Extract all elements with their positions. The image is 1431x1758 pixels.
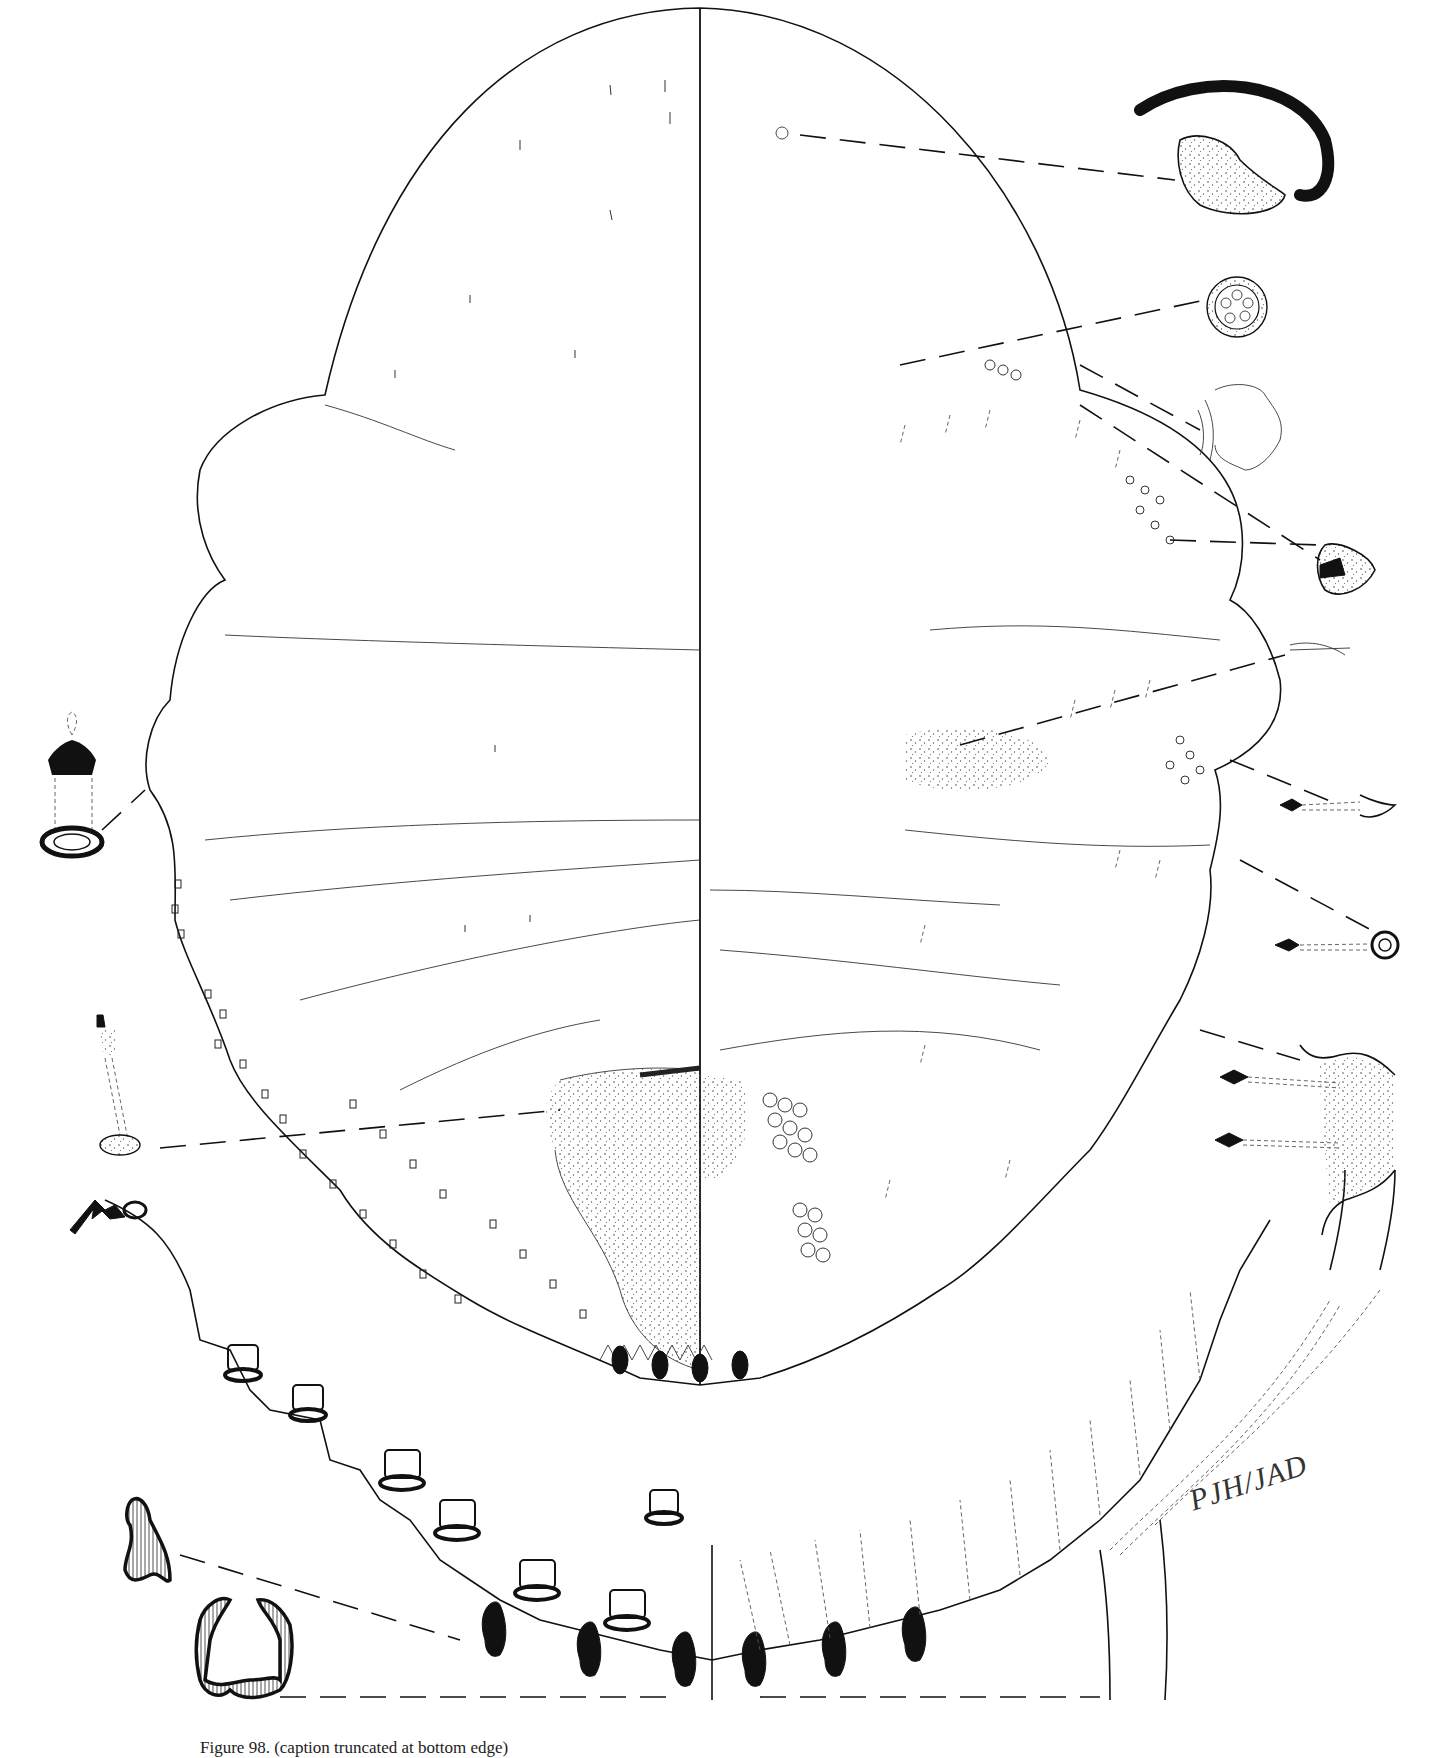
marginal-spine-detail	[125, 1499, 1100, 1698]
enlarged-margin-right	[712, 1220, 1270, 1660]
antenna-detail	[776, 86, 1328, 214]
spiracle-detail	[1080, 405, 1375, 594]
segment-lines	[205, 405, 1220, 1090]
pore-clusters	[763, 360, 1204, 1262]
anal-lobe-detail	[1100, 1170, 1395, 1700]
dorsal-ducts	[172, 880, 586, 1318]
anal-region	[546, 728, 1050, 1370]
lobe-setae-detail	[1200, 1030, 1395, 1235]
spine-detail	[70, 1200, 146, 1234]
ventral-setae	[885, 410, 1160, 1200]
dorsal-setae	[395, 80, 670, 932]
dorsal-tubular-duct-detail	[42, 712, 145, 856]
marginal-duct-detail	[97, 1015, 560, 1155]
ventral-seta-detail	[960, 643, 1398, 958]
multilocular-pore-detail	[900, 277, 1267, 365]
figure-caption: Figure 98. (caption truncated at bottom …	[200, 1738, 508, 1758]
stigmatic-cleft-detail	[1080, 365, 1281, 470]
enlarged-margin-left	[105, 1200, 926, 1686]
